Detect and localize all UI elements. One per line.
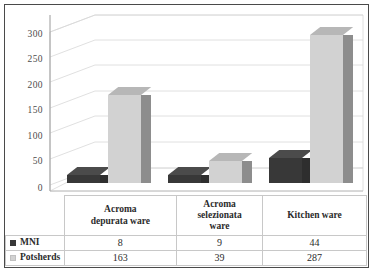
value-potsherds-kitchen-ware: 287	[262, 251, 366, 266]
value-mni-acroma-selezionata: 9	[177, 236, 263, 251]
bar-side-face	[242, 161, 252, 183]
bar-front-face	[168, 175, 201, 183]
category-line-2: depurata ware	[91, 216, 150, 226]
category-line-3: ware	[210, 221, 230, 231]
mni-square-marker	[10, 240, 16, 246]
bar-mni-kitchen-ware	[269, 150, 302, 183]
y-axis-tick-0: 0	[9, 183, 43, 193]
value-mni-acroma-depurata: 8	[64, 236, 177, 251]
table-row: MNI 8 9 44	[6, 236, 367, 251]
category-line-1: Kitchen ware	[287, 210, 341, 220]
legend-item-potsherds: Potsherds	[6, 251, 65, 266]
value-potsherds-acroma-selezionata: 39	[177, 251, 263, 266]
y-axis-tick-250: 250	[9, 54, 43, 64]
legend-label-potsherds: Potsherds	[20, 252, 60, 262]
bar-front-face	[67, 175, 100, 183]
category-line-1: Acroma	[203, 199, 236, 209]
bar-potsherds-acroma-selezionata	[209, 153, 242, 183]
bar-potsherds-kitchen-ware	[310, 27, 343, 183]
y-axis-tick-300: 300	[9, 29, 43, 39]
category-header-kitchen-ware: Kitchen ware	[262, 196, 366, 236]
value-mni-kitchen-ware: 44	[262, 236, 366, 251]
legend-item-mni: MNI	[6, 236, 65, 251]
bar-front-face	[108, 95, 141, 183]
y-axis-tick-50: 50	[9, 156, 43, 166]
y-axis-tick-150: 150	[9, 105, 43, 115]
bar-side-face	[141, 95, 151, 183]
bar-potsherds-acroma-depurata	[108, 87, 141, 183]
legend-label-mni: MNI	[20, 237, 40, 247]
category-line-1: Acroma	[104, 204, 137, 214]
bar-front-face	[209, 161, 242, 183]
chart-data-table: Acroma depurata ware Acroma selezionata …	[5, 195, 367, 266]
bar-mni-acroma-selezionata	[168, 167, 201, 183]
table-row-categories: Acroma depurata ware Acroma selezionata …	[6, 196, 367, 236]
y-axis-tick-200: 200	[9, 80, 43, 90]
table-row: Potsherds 163 39 287	[6, 251, 367, 266]
category-line-2: selezionata	[197, 210, 241, 220]
series-value-table: Acroma depurata ware Acroma selezionata …	[5, 195, 367, 266]
bar-mni-acroma-depurata	[67, 167, 100, 183]
table-corner-cell	[6, 196, 65, 236]
y-axis-tick-100: 100	[9, 131, 43, 141]
bar-front-face	[269, 158, 302, 183]
chart-frame: 300 250 200 150 100 50 0	[4, 4, 369, 268]
chart-plot-area: 300 250 200 150 100 50 0	[5, 5, 367, 195]
value-potsherds-acroma-depurata: 163	[64, 251, 177, 266]
category-header-acroma-depurata: Acroma depurata ware	[64, 196, 177, 236]
bar-front-face	[310, 35, 343, 183]
potsherds-square-marker	[10, 255, 16, 261]
category-header-acroma-selezionata: Acroma selezionata ware	[177, 196, 263, 236]
bar-side-face	[343, 35, 353, 183]
